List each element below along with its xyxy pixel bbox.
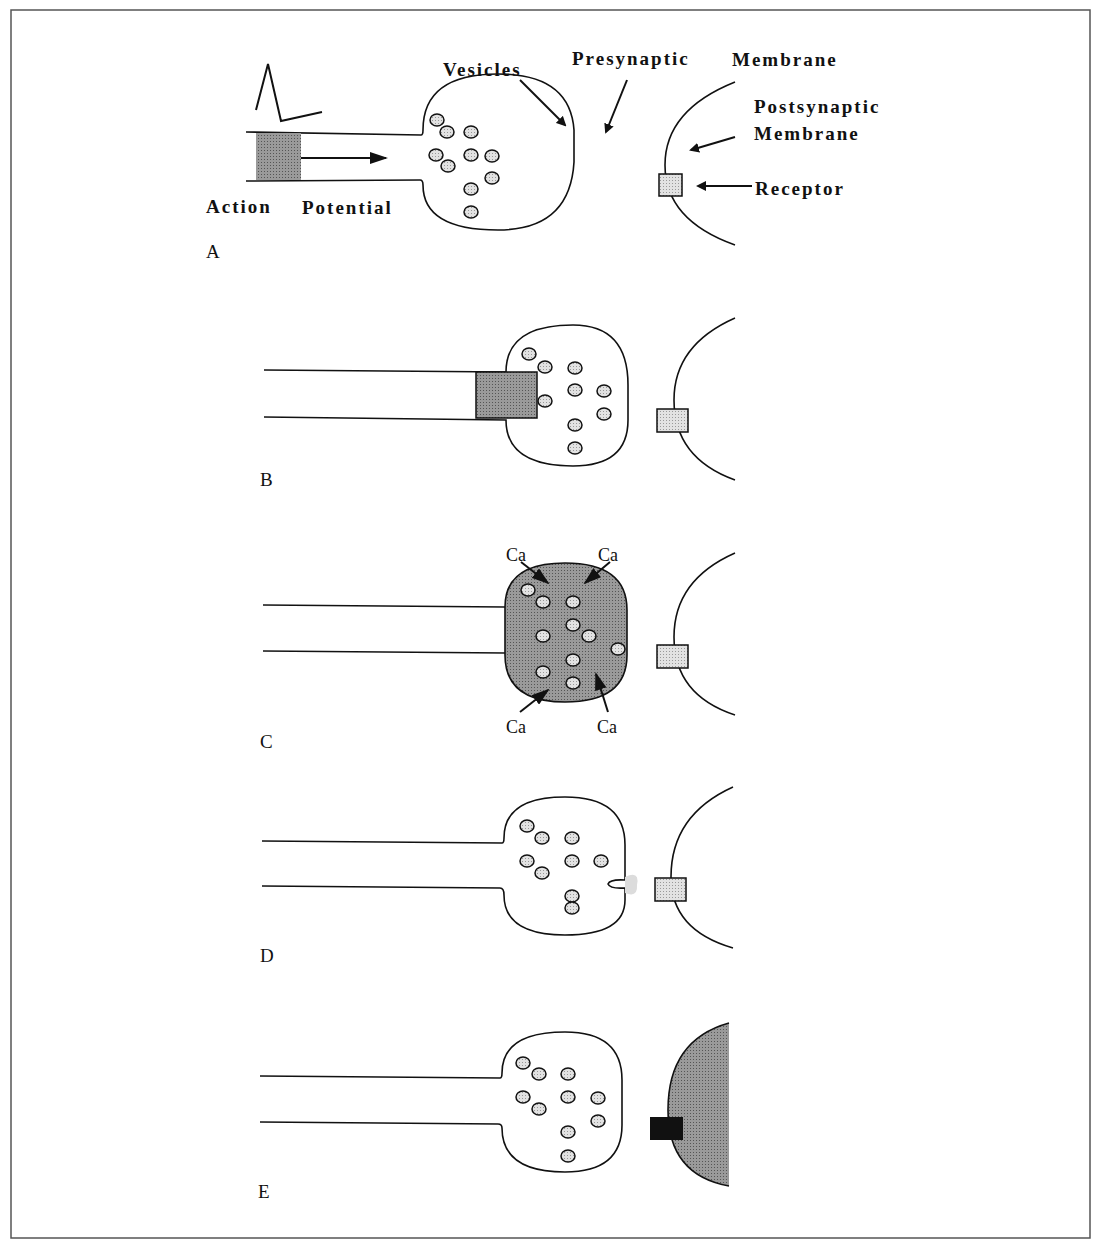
action-potential-block (476, 372, 537, 418)
label-postsynaptic: Postsynaptic (754, 96, 880, 117)
action-potential-spike-icon (256, 64, 322, 121)
depolarized-postsynaptic-cell (668, 1023, 729, 1186)
label-ca-4: Ca (597, 717, 617, 737)
panel-a: Vesicles Presynaptic Membrane Postsynapt… (206, 48, 880, 262)
label-action: Action (206, 196, 272, 217)
label-presynaptic: Presynaptic (572, 48, 690, 69)
label-vesicles: Vesicles (443, 59, 522, 80)
receptor (657, 409, 688, 432)
vesicles (520, 820, 608, 914)
vesicles (516, 1057, 605, 1162)
label-membrane: Membrane (732, 49, 838, 70)
panel-label-b: B (260, 469, 273, 490)
synapse-figure: Vesicles Presynaptic Membrane Postsynapt… (0, 0, 1102, 1254)
panel-label-a: A (206, 241, 220, 262)
receptor (655, 878, 686, 901)
panel-label-d: D (260, 945, 274, 966)
released-neurotransmitter (625, 875, 638, 895)
activated-receptor (650, 1117, 683, 1140)
postsynaptic-membrane (671, 787, 733, 948)
postsynaptic-membrane (674, 553, 735, 715)
panel-label-e: E (258, 1181, 270, 1202)
label-ca-2: Ca (598, 545, 618, 565)
receptor (659, 174, 682, 196)
postsynaptic-membrane (665, 82, 735, 245)
panel-c: Ca Ca Ca Ca C (260, 545, 735, 752)
postsynaptic-arrow-icon (691, 137, 735, 150)
panel-e: E (258, 1023, 729, 1202)
postsynaptic-membrane (674, 318, 735, 480)
label-receptor: Receptor (755, 178, 845, 199)
label-ca-1: Ca (506, 545, 526, 565)
action-potential-block (256, 133, 301, 180)
presynaptic-arrow-icon (606, 80, 627, 132)
label-postsynaptic-membrane: Membrane (754, 123, 860, 144)
label-ca-3: Ca (506, 717, 526, 737)
receptor (657, 645, 688, 668)
panel-b: B (260, 318, 735, 490)
panel-label-c: C (260, 731, 273, 752)
vesicles-arrow-icon (520, 80, 565, 125)
label-potential: Potential (302, 197, 393, 218)
vesicles (429, 114, 499, 218)
panel-d: D (260, 787, 733, 966)
